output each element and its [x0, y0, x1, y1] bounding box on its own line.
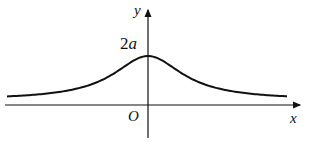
diagram: y x O 2a	[0, 0, 310, 149]
agnesi-curve	[7, 56, 287, 96]
peak-label: 2a	[120, 34, 137, 54]
origin-label: O	[128, 108, 139, 125]
plot-canvas	[0, 0, 310, 149]
x-axis-label: x	[290, 110, 297, 127]
y-axis-label: y	[134, 2, 141, 19]
